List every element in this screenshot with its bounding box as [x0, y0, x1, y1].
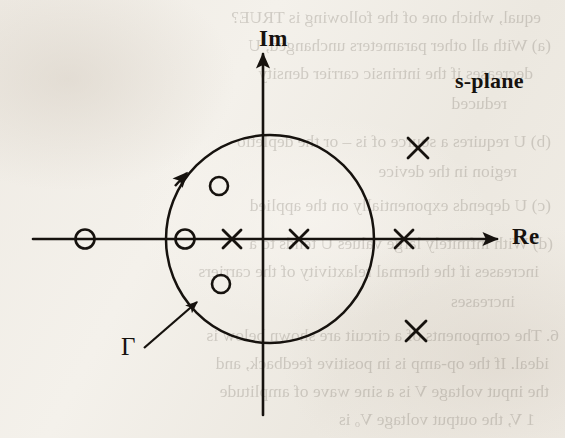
- gamma-leader-line: [144, 302, 197, 348]
- pole-lower-right: [406, 321, 426, 341]
- zero-lower-inner: [212, 275, 230, 293]
- s-plane-title-label: s-plane: [455, 68, 524, 94]
- imaginary-axis-label: Im: [259, 26, 288, 52]
- figure-canvas: equal, which one of the following is TRU…: [0, 0, 565, 438]
- pole-upper-right: [408, 138, 428, 158]
- zero-markers: [76, 177, 231, 293]
- gamma-callout-arrow: [144, 302, 197, 348]
- zero-upper-inner: [210, 177, 228, 195]
- gamma-contour-label: Γ: [121, 333, 135, 361]
- real-axis-label: Re: [512, 224, 539, 250]
- s-plane-diagram: [0, 0, 565, 438]
